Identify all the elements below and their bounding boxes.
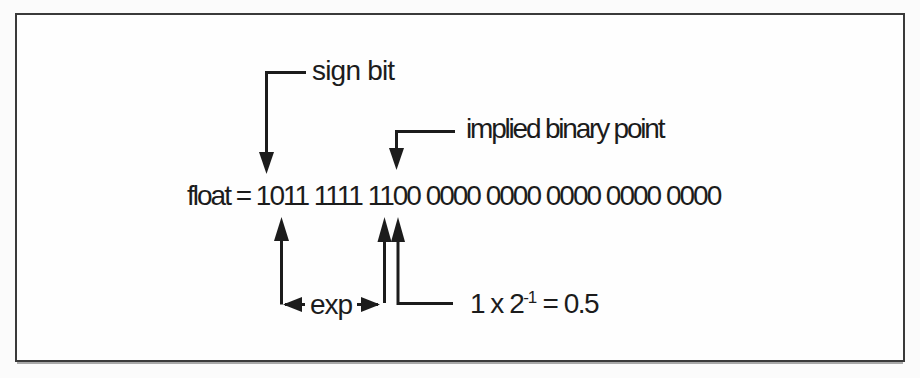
mantissa-value-label: 1 x 2-1 = 0.5 <box>470 287 598 325</box>
implied-binary-point-label: implied binary point <box>466 112 663 146</box>
sign-bit-label: sign bit <box>312 54 394 88</box>
value-result: = 0.5 <box>536 288 598 319</box>
value-base: 1 x 2 <box>470 288 523 319</box>
float-bit-string: float = 1011 1111 1100 0000 0000 0000 00… <box>187 179 720 213</box>
exp-label: exp <box>305 288 357 322</box>
diagram-canvas: float = 1011 1111 1100 0000 0000 0000 00… <box>0 0 920 378</box>
value-exponent-superscript: -1 <box>523 288 536 307</box>
